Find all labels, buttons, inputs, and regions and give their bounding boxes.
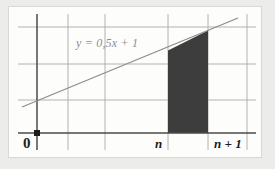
line-equation-label: y = 0,5x + 1	[76, 37, 138, 49]
origin-label: 0	[23, 136, 31, 151]
x-tick-label-n-plus-1: n + 1	[214, 137, 242, 150]
origin-dot	[34, 130, 40, 136]
vertical-gridlines	[68, 14, 247, 150]
figure-root: y = 0,5x + 1 0 n n + 1	[0, 0, 275, 169]
x-tick-label-n: n	[155, 137, 162, 150]
shaded-region-under-line	[168, 31, 208, 134]
